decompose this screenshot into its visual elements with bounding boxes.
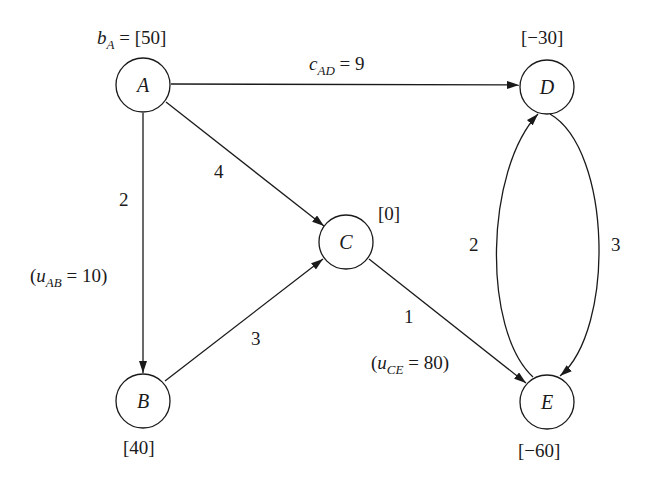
supply-label-E: [−60] — [518, 441, 560, 460]
supply-label-B: [40] — [123, 438, 155, 457]
edge-label-D-E: 3 — [611, 235, 621, 254]
edge-A-D — [171, 84, 519, 85]
edge-label-A-D: cAD = 9 — [309, 54, 365, 73]
cap-AB-symbol: u — [36, 265, 46, 286]
cap-AB-subscript: AB — [46, 275, 62, 290]
node-A-label: A — [116, 58, 170, 112]
node-B-label: B — [116, 374, 170, 428]
supply-A-symbol: b — [97, 27, 107, 48]
supply-A-value: [50] — [135, 27, 167, 48]
node-C-label: C — [319, 215, 373, 269]
edge-label-A-C: 4 — [214, 162, 224, 181]
supply-A-subscript: A — [107, 37, 115, 52]
edge-label-C-E: 1 — [404, 307, 414, 326]
cap-AB-value: = 10) — [62, 265, 108, 286]
node-D-label: D — [520, 60, 574, 114]
capacity-label-C-E: (uCE = 80) — [371, 353, 449, 372]
cap-CE-symbol: u — [377, 352, 387, 373]
node-E-label: E — [520, 375, 574, 429]
cap-CE-subscript: CE — [387, 362, 404, 377]
edge-D-E — [550, 114, 599, 376]
cap-CE-value: = 80) — [403, 352, 449, 373]
edge-label-E-D: 2 — [469, 235, 479, 254]
edge-E-D — [496, 114, 538, 377]
supply-A-equals: = — [114, 27, 134, 48]
capacity-label-A-B: (uAB = 10) — [30, 266, 107, 285]
edge-label-A-B: 2 — [119, 190, 129, 209]
edge-A-C — [166, 102, 324, 226]
cost-AD-subscript: AD — [317, 63, 334, 78]
network-flow-diagram: A B C D E bA = [50] [40] [0] [−30] [−60]… — [0, 0, 658, 477]
cost-AD-value: = 9 — [335, 53, 365, 74]
edge-B-C — [165, 259, 323, 381]
supply-label-D: [−30] — [521, 28, 563, 47]
supply-label-C: [0] — [378, 204, 400, 223]
edge-label-B-C: 3 — [251, 329, 261, 348]
supply-label-A: bA = [50] — [97, 28, 166, 47]
